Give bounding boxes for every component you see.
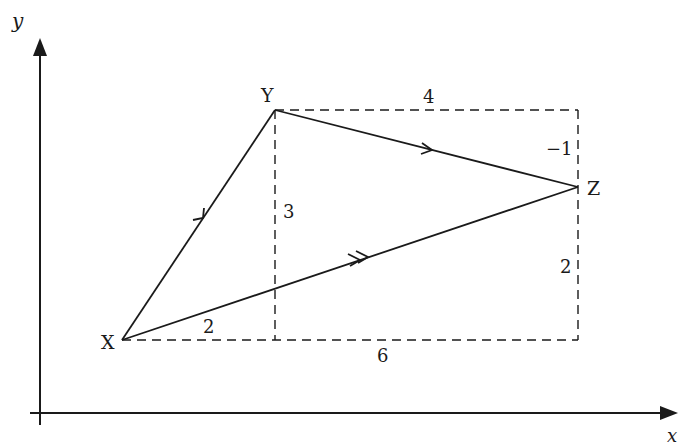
point-y-label: Y (260, 84, 274, 106)
x-axis-arrowhead-icon (660, 406, 678, 420)
label-yz-horizontal: 4 (423, 86, 434, 107)
vector-diagram: y x X Y Z 2 3 4 −1 6 2 (0, 0, 688, 446)
point-x-label: X (101, 331, 115, 353)
y-axis-label: y (11, 9, 24, 33)
label-xy-horizontal: 2 (203, 316, 214, 337)
vector-yz (275, 110, 578, 187)
construction-lines (122, 110, 578, 340)
y-axis-arrowhead-icon (33, 38, 47, 56)
label-yz-vertical: −1 (546, 138, 573, 159)
point-z-label: Z (587, 177, 600, 199)
label-xz-vertical: 2 (560, 256, 571, 277)
vector-xy (122, 110, 275, 340)
x-axis-label: x (667, 425, 677, 446)
axes: y x (11, 9, 678, 446)
vectors (122, 110, 578, 340)
vector-xz (122, 187, 578, 340)
label-xy-vertical: 3 (283, 201, 294, 222)
label-xz-horizontal: 6 (377, 345, 388, 366)
arrow-xy-icon (193, 208, 204, 220)
